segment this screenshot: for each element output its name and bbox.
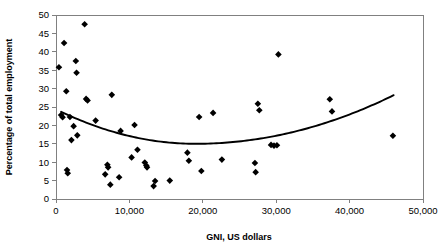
y-tick-label: 25 (38, 101, 49, 112)
x-tick-label: 30,000 (262, 205, 291, 216)
x-tick-label: 10,000 (115, 205, 144, 216)
y-tick-label: 10 (38, 157, 49, 168)
x-tick-label: 50,000 (408, 205, 437, 216)
y-tick-label: 45 (38, 28, 49, 39)
scatter-chart: 010,00020,00030,00040,00050,000 05101520… (0, 0, 448, 251)
y-tick-label: 30 (38, 83, 49, 94)
chart-canvas: 010,00020,00030,00040,00050,000 05101520… (0, 0, 448, 251)
x-tick-label: 40,000 (335, 205, 364, 216)
y-tick-label: 0 (44, 193, 49, 204)
y-tick-label: 40 (38, 46, 49, 57)
chart-background (0, 0, 448, 251)
y-tick-label: 5 (44, 175, 49, 186)
y-tick-label: 20 (38, 120, 49, 131)
y-tick-label: 35 (38, 65, 49, 76)
x-tick-label: 0 (53, 205, 58, 216)
x-tick-label: 20,000 (188, 205, 217, 216)
y-axis-title: Percentage of total employment (4, 39, 14, 176)
y-tick-label: 15 (38, 138, 49, 149)
y-tick-label: 50 (38, 9, 49, 20)
x-axis-title: GNI, US dollars (206, 232, 272, 242)
